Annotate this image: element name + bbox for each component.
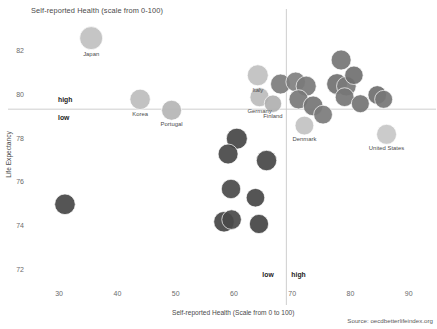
- bubble-portugal[interactable]: [162, 100, 182, 120]
- bubble-point-29[interactable]: [222, 210, 242, 230]
- bubble-point-13[interactable]: [314, 105, 333, 124]
- y-axis-tick-78: 78: [8, 135, 24, 142]
- y-axis-tick-82: 82: [8, 47, 24, 54]
- x-axis-tick-80: 80: [340, 290, 360, 297]
- bubble-point-27[interactable]: [55, 194, 76, 215]
- x-axis-tick-60: 60: [224, 290, 244, 297]
- bubble-point-26[interactable]: [246, 188, 265, 207]
- bubble-label-finland: Finland: [263, 113, 282, 119]
- bubble-label-portugal: Portugal: [161, 121, 183, 127]
- quadrant-label-low-lower: low: [58, 114, 69, 121]
- y-axis-tick-76: 76: [8, 178, 24, 185]
- source-note: Source: oecdbetterlifeindex.org: [347, 317, 433, 324]
- bubble-label-united-states: United States: [369, 145, 404, 151]
- y-axis-tick-72: 72: [8, 266, 24, 273]
- x-axis-tick-50: 50: [166, 290, 186, 297]
- bubble-point-19[interactable]: [351, 95, 369, 113]
- x-axis-tick-40: 40: [107, 290, 127, 297]
- y-axis-tick-74: 74: [8, 222, 24, 229]
- bubble-united-states[interactable]: [377, 124, 397, 144]
- bubble-denmark[interactable]: [295, 116, 314, 135]
- quadrant-label-low-left: low: [262, 271, 273, 278]
- bubble-point-25[interactable]: [221, 179, 240, 198]
- bubble-italy[interactable]: [247, 65, 268, 86]
- bubble-label-japan: Japan: [83, 51, 99, 57]
- y-axis-title: Life Expectancy: [5, 125, 12, 185]
- x-axis-tick-70: 70: [282, 290, 302, 297]
- bubble-japan[interactable]: [80, 27, 103, 50]
- bubble-label-denmark: Denmark: [292, 136, 316, 142]
- bubble-point-14[interactable]: [331, 50, 351, 70]
- bubble-label-korea: Korea: [132, 111, 148, 117]
- bubble-point-23[interactable]: [218, 144, 238, 164]
- x-axis-tick-30: 30: [49, 290, 69, 297]
- bubble-point-18[interactable]: [345, 66, 363, 84]
- bubble-point-24[interactable]: [256, 150, 276, 170]
- quadrant-label-high-right: high: [291, 271, 305, 278]
- scatter-chart: Self-reported Health (scale from 0-100) …: [0, 0, 437, 329]
- quadrant-label-high-upper: high: [58, 96, 72, 103]
- bubble-point-30[interactable]: [249, 214, 268, 233]
- bubble-point-21[interactable]: [375, 90, 393, 108]
- chart-canvas: [0, 0, 437, 329]
- x-axis-tick-90: 90: [399, 290, 419, 297]
- bubble-series: [55, 27, 397, 234]
- x-axis-title: Self-reported Health (Scale from 0 to 10…: [172, 309, 294, 316]
- bubble-korea[interactable]: [130, 89, 150, 109]
- bubble-label-italy: Italy: [252, 87, 263, 93]
- y-axis-tick-80: 80: [8, 91, 24, 98]
